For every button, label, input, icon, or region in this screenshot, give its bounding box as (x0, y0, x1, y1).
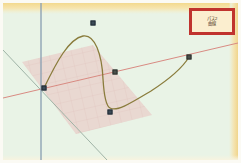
app-root: パス2 曲線 (0, 0, 241, 163)
legend-box[interactable]: パス2 曲線 (189, 8, 235, 35)
origin-handle[interactable] (42, 86, 47, 91)
right-handle[interactable] (187, 55, 192, 60)
drawing-viewport[interactable]: パス2 曲線 (3, 3, 238, 160)
legend-line-2: 曲線 (208, 22, 216, 27)
upper-handle[interactable] (91, 21, 96, 26)
lower-handle[interactable] (108, 110, 113, 115)
mid-handle[interactable] (113, 70, 118, 75)
